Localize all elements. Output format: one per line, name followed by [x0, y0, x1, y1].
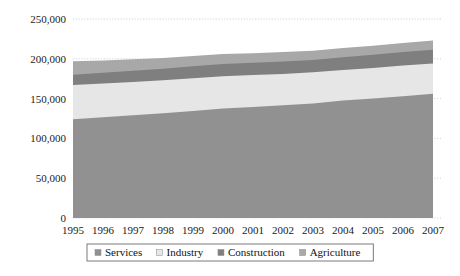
x-tick-label: 1996 — [92, 224, 115, 236]
x-tick-label: 1999 — [182, 224, 205, 236]
y-tick-label: 200,000 — [30, 53, 66, 65]
y-tick-label: 50,000 — [36, 172, 67, 184]
legend-swatch-services — [95, 250, 101, 256]
x-tick-label: 2003 — [302, 224, 325, 236]
x-tick-label: 2001 — [242, 224, 264, 236]
chart-canvas: 050,000100,000150,000200,000250,000 1995… — [0, 0, 460, 276]
x-tick-label: 1998 — [152, 224, 175, 236]
x-tick-label: 2006 — [392, 224, 415, 236]
chart-legend: ServicesIndustryConstructionAgriculture — [87, 244, 373, 261]
y-tick-label: 100,000 — [30, 132, 66, 144]
x-tick-label: 2000 — [212, 224, 235, 236]
x-tick-label: 2005 — [362, 224, 385, 236]
legend-label-agriculture: Agriculture — [310, 246, 361, 258]
legend-label-services: Services — [105, 246, 142, 258]
y-tick-label: 250,000 — [30, 13, 66, 25]
x-tick-label: 2007 — [422, 224, 445, 236]
y-tick-label: 150,000 — [30, 93, 66, 105]
x-tick-label: 1997 — [122, 224, 145, 236]
legend-label-industry: Industry — [166, 246, 203, 258]
legend-swatch-agriculture — [300, 250, 306, 256]
area-series-group — [73, 40, 433, 218]
y-tick-label: 0 — [61, 212, 67, 224]
legend-swatch-industry — [156, 250, 162, 256]
x-tick-label: 1995 — [62, 224, 85, 236]
stacked-area-chart: 050,000100,000150,000200,000250,000 1995… — [0, 0, 460, 276]
x-tick-label: 2004 — [332, 224, 355, 236]
y-axis-labels: 050,000100,000150,000200,000250,000 — [30, 13, 66, 224]
x-axis-labels: 1995199619971998199920002001200220032004… — [62, 224, 445, 236]
x-tick-label: 2002 — [272, 224, 294, 236]
legend-swatch-construction — [218, 250, 224, 256]
legend-label-construction: Construction — [228, 246, 285, 258]
